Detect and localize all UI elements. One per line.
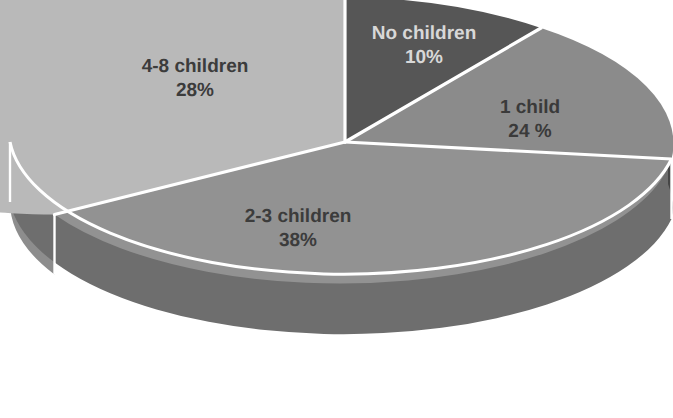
pie-chart: No children 10% 1 child 24 % 2-3 childre… — [0, 0, 673, 418]
pie-chart-graphic — [0, 0, 673, 418]
